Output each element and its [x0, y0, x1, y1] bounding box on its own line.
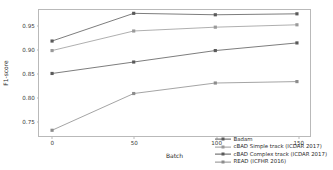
x-axis-tick-mark: [134, 136, 135, 139]
series-layer: [39, 10, 310, 136]
y-axis-tick-label: 0.85: [22, 71, 35, 77]
legend-label: Badam: [234, 136, 253, 143]
series-3: [50, 41, 298, 75]
legend-label: cBAD Complex track (ICDAR 2017): [234, 151, 328, 158]
series-1: [50, 12, 298, 43]
legend-marker-icon: [215, 143, 231, 150]
data-point-marker: [50, 39, 53, 42]
data-point-marker: [50, 72, 53, 75]
legend-item-4[interactable]: READ (ICFHR 2016): [215, 158, 328, 165]
data-point-marker: [132, 60, 135, 63]
y-axis-tick-label: 0.95: [22, 23, 35, 29]
series-line: [52, 82, 297, 131]
y-axis-tick-mark: [37, 74, 40, 75]
x-axis-tick-label: 0: [50, 140, 54, 146]
y-axis-tick-mark: [37, 25, 40, 26]
y-axis-tick-mark: [37, 98, 40, 99]
series-2: [50, 23, 298, 52]
data-point-marker: [132, 92, 135, 95]
legend-item-2[interactable]: cBAD Simple track (ICDAR 2017): [215, 143, 328, 150]
series-line: [52, 43, 297, 74]
y-axis-tick-label: 0.80: [22, 95, 35, 101]
y-axis-title: F1-score: [2, 60, 9, 86]
data-point-marker: [50, 49, 53, 52]
legend-label: READ (ICFHR 2016): [234, 158, 287, 165]
data-point-marker: [132, 29, 135, 32]
y-axis-tick-label: 0.90: [22, 47, 35, 53]
legend-item-1[interactable]: Badam: [215, 136, 328, 143]
plot-area: 0.750.800.850.900.95050100150: [38, 9, 311, 137]
series-4: [50, 80, 298, 132]
data-point-marker: [132, 12, 135, 15]
legend-label: cBAD Simple track (ICDAR 2017): [234, 143, 322, 150]
figure-canvas: F1-score 0.750.800.850.900.95050100150 B…: [0, 0, 333, 170]
legend-marker-icon: [215, 151, 231, 158]
data-point-marker: [295, 80, 298, 83]
data-point-marker: [295, 23, 298, 26]
series-line: [52, 13, 297, 41]
chart-legend: BadamcBAD Simple track (ICDAR 2017)cBAD …: [213, 134, 331, 168]
data-point-marker: [295, 41, 298, 44]
data-point-marker: [214, 81, 217, 84]
legend-marker-icon: [215, 158, 231, 165]
data-point-marker: [214, 49, 217, 52]
data-point-marker: [295, 12, 298, 15]
data-point-marker: [214, 26, 217, 29]
data-point-marker: [214, 13, 217, 16]
x-axis-tick-mark: [52, 136, 53, 139]
legend-marker-icon: [215, 136, 231, 143]
legend-item-3[interactable]: cBAD Complex track (ICDAR 2017): [215, 151, 328, 158]
x-axis-tick-label: 50: [131, 140, 138, 146]
data-point-marker: [50, 129, 53, 132]
y-axis-tick-label: 0.75: [22, 119, 35, 125]
y-axis-tick-mark: [37, 49, 40, 50]
y-axis-tick-mark: [37, 122, 40, 123]
